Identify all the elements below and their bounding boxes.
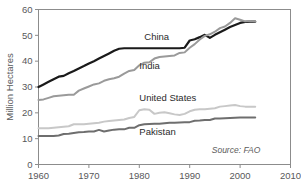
y-tick-label: 10 [22,133,33,144]
x-tick-label: 2000 [230,170,251,181]
y-tick-label: 50 [22,30,33,41]
series-label-pakistan: Pakistan [139,126,175,137]
y-tick-label: 20 [22,107,33,118]
y-tick-label: 0 [27,159,32,170]
annotation-source: Source: FAO [212,145,261,155]
annotation-layer: Source: FAO [212,145,261,155]
series-label-united-states: United States [139,92,196,103]
series-label-china: China [144,31,170,42]
x-tick-label: 1980 [129,170,150,181]
x-tick-label: 1970 [78,170,99,181]
y-tick-label: 40 [22,55,33,66]
x-tick-label: 1960 [28,170,49,181]
series-label-india: India [139,60,160,71]
x-tick-label: 1990 [179,170,200,181]
line-chart: 0102030405060196019701980199020002010Mil… [0,0,301,195]
chart-figure: 0102030405060196019701980199020002010Mil… [0,0,301,195]
y-tick-label: 30 [22,81,33,92]
x-tick-label: 2010 [280,170,301,181]
y-tick-label: 60 [22,4,33,15]
y-axis-title: Million Hectares [4,53,15,121]
